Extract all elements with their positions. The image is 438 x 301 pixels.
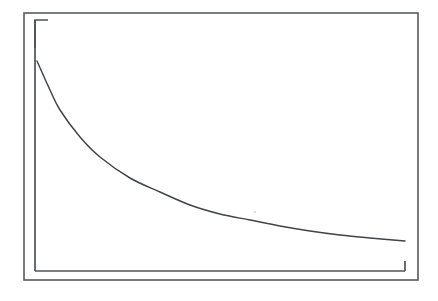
plot-canvas [0, 0, 438, 301]
canvas-background [0, 0, 438, 301]
scan-speck [254, 211, 256, 213]
figure-root [0, 0, 438, 301]
